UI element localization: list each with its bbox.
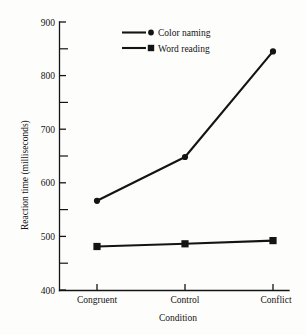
data-point-marker [270, 48, 276, 54]
y-tick-label-800: 800 [41, 71, 56, 81]
x-tick-label-control: Control [170, 295, 199, 305]
square-marker-icon [148, 45, 154, 51]
series-word-reading [93, 237, 276, 250]
y-tick-label-400: 400 [41, 286, 56, 296]
data-point-marker [94, 198, 100, 204]
y-tick-label-700: 700 [41, 125, 56, 135]
x-tick-label-congruent: Congruent [77, 295, 117, 305]
chart-figure: Reaction time (milliseconds) 900 800 700… [0, 0, 306, 335]
y-minor-ticks [60, 49, 69, 263]
x-axis-title: Condition [159, 313, 197, 323]
y-tick-label-500: 500 [41, 232, 56, 242]
legend-label-word-reading: Word reading [158, 44, 210, 54]
data-point-marker [182, 154, 188, 160]
stroop-line-chart: Reaction time (milliseconds) 900 800 700… [0, 0, 306, 335]
legend-entry-word-reading: Word reading [122, 44, 210, 54]
data-point-marker [93, 243, 100, 250]
x-ticks [97, 284, 273, 291]
chart-legend: Color naming Word reading [122, 28, 211, 54]
y-tick-label-600: 600 [41, 178, 56, 188]
y-axis-title: Reaction time (milliseconds) [20, 120, 31, 230]
legend-entry-color-naming: Color naming [122, 28, 211, 38]
data-point-marker [269, 237, 276, 244]
color-naming-line [97, 51, 273, 200]
data-point-marker [181, 240, 188, 247]
legend-label-color-naming: Color naming [158, 28, 211, 38]
circle-marker-icon [148, 30, 154, 36]
x-tick-label-conflict: Conflict [260, 295, 291, 305]
series-color-naming [94, 48, 276, 204]
y-tick-label-900: 900 [41, 18, 56, 28]
